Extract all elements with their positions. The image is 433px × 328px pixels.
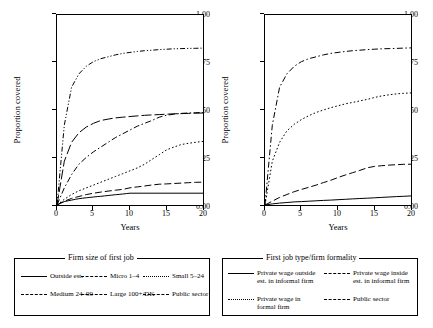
x-axis-label-right: Years	[264, 222, 412, 232]
series-line-medium	[57, 113, 203, 206]
series-lines-left	[57, 15, 203, 205]
legend-item-public-right: Public sector	[324, 295, 416, 303]
plot-area-left	[56, 14, 204, 206]
series-line-pw-inside-informal	[265, 164, 411, 205]
x-tick-left-5: 20	[199, 209, 207, 218]
legend-swatch-solid-icon	[21, 272, 47, 280]
series-line-small	[57, 141, 203, 205]
chart-panel-left: Proportion covered 1.00 0.75 0.50 0.25 0…	[14, 6, 210, 246]
y-axis-label-left: Proportion covered	[12, 14, 26, 206]
legend-item-pw-outside-informal: Private wage outside est. in informal fi…	[228, 269, 318, 286]
legend-label: Micro 1–4	[110, 272, 139, 280]
x-tick-left-3: 10	[125, 209, 133, 218]
y-axis-label-right: Proportion covered	[220, 14, 234, 206]
figure-root: Proportion covered 1.00 0.75 0.50 0.25 0…	[0, 0, 433, 328]
series-line-outside-est	[57, 193, 203, 205]
legend-left: Firm size of first job Outside est. Micr…	[14, 258, 210, 316]
x-tick-right-1: 0	[262, 209, 266, 218]
legend-item-pw-inside-informal: Private wage inside est. in informal fir…	[324, 269, 416, 286]
legend-label: Outside est.	[50, 272, 83, 280]
x-tick-right-2: 5	[298, 209, 302, 218]
legend-label: Private wage outside est. in informal fi…	[257, 269, 318, 286]
x-tick-right-3: 10	[333, 209, 341, 218]
legend-label: Private wage in formal firm	[257, 295, 318, 312]
series-line-public	[57, 48, 203, 205]
legend-swatch-solid-icon	[228, 269, 254, 277]
x-tick-left-4: 15	[162, 209, 170, 218]
x-tick-right-4: 15	[370, 209, 378, 218]
x-tick-right-5: 20	[407, 209, 415, 218]
series-line-pw-outside-informal	[265, 196, 411, 205]
legend-swatch-dashdot-icon	[21, 290, 47, 298]
x-tick-left-2: 5	[90, 209, 94, 218]
legend-right: First job type/firm formality Private wa…	[222, 258, 418, 316]
legend-left-title: Firm size of first job	[65, 253, 137, 262]
chart-panel-right: Proportion covered 1.00 0.75 0.50 0.25 0…	[222, 6, 418, 246]
series-line-pw-formal	[265, 93, 411, 205]
legend-swatch-longdash-icon	[81, 272, 107, 280]
x-axis-label-left: Years	[56, 222, 204, 232]
series-line-public-right	[265, 48, 411, 205]
legend-label: Public sector	[353, 295, 389, 303]
legend-swatch-dotted-icon	[228, 295, 254, 303]
plot-area-right	[264, 14, 412, 206]
legend-swatch-dashdotdot-icon	[143, 290, 169, 298]
legend-swatch-dashed-icon	[324, 269, 350, 277]
legend-swatch-dashdot-icon	[324, 295, 350, 303]
legend-label: Public sector	[172, 290, 208, 298]
legend-item-small: Small 5–24	[143, 272, 204, 280]
series-lines-right	[265, 15, 411, 205]
x-tick-left-1: 0	[54, 209, 58, 218]
legend-item-public-left: Public sector	[143, 290, 208, 298]
legend-label: Small 5–24	[172, 272, 204, 280]
legend-swatch-dotted-icon	[143, 272, 169, 280]
legend-item-outside-est: Outside est.	[21, 272, 83, 280]
legend-item-pw-formal: Private wage in formal firm	[228, 295, 318, 312]
legend-right-title: First job type/firm formality	[263, 253, 359, 262]
legend-item-micro: Micro 1–4	[81, 272, 139, 280]
legend-swatch-dashedlong-icon	[81, 290, 107, 298]
series-line-large	[57, 113, 203, 205]
legend-label: Private wage inside est. in informal fir…	[353, 269, 416, 286]
